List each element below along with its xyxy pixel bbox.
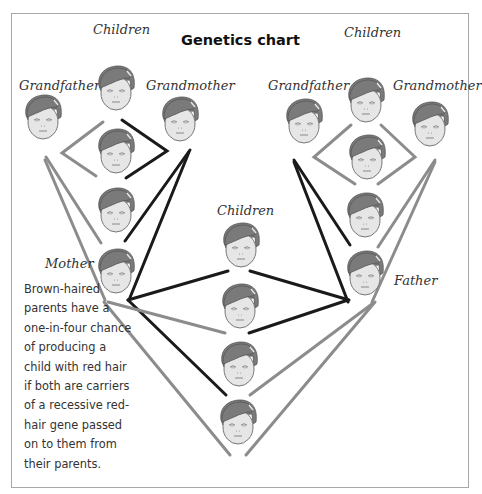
label-right-grandmother: Grandmother xyxy=(393,78,482,93)
face-center-child-3 xyxy=(217,340,261,388)
label-left-grandfather: Grandfather xyxy=(19,78,100,93)
label-left-grandmother: Grandmother xyxy=(146,78,235,93)
face-right-grandmother xyxy=(408,100,452,148)
face-left-child-1 xyxy=(94,64,138,112)
caption-line: parents have a xyxy=(24,299,149,318)
label-left-children: Children xyxy=(93,22,150,37)
explanation-caption: Brown-haired parents have a one-in-four … xyxy=(24,280,149,474)
caption-line: one-in-four chance xyxy=(24,319,149,338)
label-father: Father xyxy=(394,273,437,288)
caption-line: of producing a xyxy=(24,338,149,357)
left-grandmother-to-mother xyxy=(129,152,189,300)
label-right-children: Children xyxy=(344,25,401,40)
face-left-grandmother xyxy=(158,95,202,143)
face-left-grandfather xyxy=(21,93,65,141)
label-center-children: Children xyxy=(217,203,274,218)
caption-line: of a recessive red- xyxy=(24,396,149,415)
father-to-center-child4 xyxy=(246,302,375,455)
caption-line: child with red hair xyxy=(24,358,149,377)
face-right-grandfather xyxy=(282,97,326,145)
face-mother xyxy=(94,247,138,295)
face-father xyxy=(343,249,387,297)
face-right-child-1 xyxy=(344,76,388,124)
father-to-center-child1 xyxy=(250,271,349,300)
label-mother: Mother xyxy=(45,256,94,271)
face-left-child-2 xyxy=(94,127,138,175)
father-to-center-child2 xyxy=(249,300,348,333)
caption-line: on to them from xyxy=(24,435,149,454)
face-right-child-2 xyxy=(345,133,389,181)
caption-line: if both are carriers xyxy=(24,377,149,396)
face-left-child-3 xyxy=(94,186,138,234)
caption-line: hair gene passed xyxy=(24,416,149,435)
face-center-child-2 xyxy=(218,282,262,330)
caption-line: their parents. xyxy=(24,455,149,474)
father-to-center-child3 xyxy=(250,304,372,395)
face-center-child-4 xyxy=(216,398,260,446)
face-center-child-1 xyxy=(219,221,263,269)
label-right-grandfather: Grandfather xyxy=(268,78,349,93)
face-right-child-3 xyxy=(343,191,387,239)
